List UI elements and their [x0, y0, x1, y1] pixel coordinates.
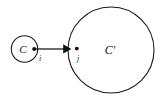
cluster-label-target: C′	[105, 43, 116, 57]
figure-container: C C′ i j	[0, 0, 161, 97]
node-dot-j	[75, 47, 79, 51]
node-dot-i	[32, 47, 36, 51]
cluster-label-source: C	[19, 43, 27, 55]
node-label-i: i	[39, 54, 41, 63]
graph-diagram-canvas: C C′ i j	[0, 0, 161, 97]
